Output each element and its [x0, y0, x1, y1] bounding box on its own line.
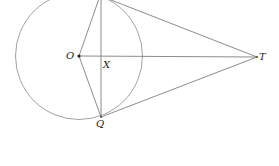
- label-o: O: [66, 51, 74, 61]
- label-x: X: [103, 60, 110, 70]
- point-o-dot: [77, 54, 80, 57]
- segment-ot: [79, 56, 257, 57]
- tangent-qt: [101, 57, 257, 117]
- label-t: T: [259, 52, 266, 62]
- label-q: Q: [96, 119, 104, 129]
- circle-centre-o: [16, 0, 143, 120]
- geometry-diagram: [0, 0, 279, 166]
- tangent-pt: [106, 0, 257, 57]
- segment-op: [79, 0, 101, 56]
- point-t-dot: [256, 56, 258, 58]
- segment-oq: [79, 56, 101, 117]
